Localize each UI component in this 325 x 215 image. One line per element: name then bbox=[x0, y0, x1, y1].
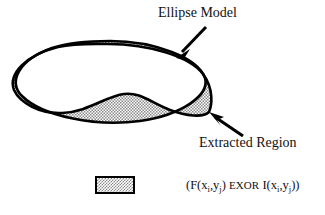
extracted-region-arrow bbox=[209, 112, 243, 136]
legend-sub-j-1: j bbox=[219, 184, 221, 194]
legend-close-2: )) bbox=[291, 178, 299, 192]
legend-open: (F(x bbox=[186, 178, 208, 192]
extracted-region-label: Extracted Region bbox=[199, 136, 297, 150]
figure-canvas: Ellipse Model Extracted Region (F(xi,yj)… bbox=[0, 0, 325, 215]
legend-sub-i-1: i bbox=[208, 184, 210, 194]
legend-operator: EXOR bbox=[229, 179, 259, 191]
ellipse-model-label: Ellipse Model bbox=[158, 6, 237, 20]
legend-sub-j-2: j bbox=[289, 184, 291, 194]
xor-region-swatch bbox=[95, 176, 135, 194]
legend-close-1: ) bbox=[222, 178, 229, 192]
legend-mid: I(x bbox=[259, 178, 277, 192]
legend-comma-1: ,y bbox=[210, 178, 219, 192]
ellipse-model-arrow bbox=[176, 27, 206, 61]
legend-comma-2: ,y bbox=[279, 178, 288, 192]
legend-label: (F(xi,yj) EXOR I(xi,yj)) bbox=[186, 178, 299, 193]
legend: (F(xi,yj) EXOR I(xi,yj)) bbox=[95, 176, 299, 194]
